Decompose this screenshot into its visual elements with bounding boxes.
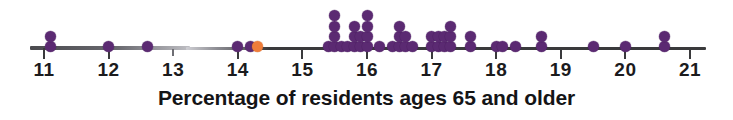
x-tick-label-15: 15 bbox=[291, 60, 313, 79]
x-tick-label-21: 21 bbox=[679, 60, 701, 79]
data-dot bbox=[329, 10, 340, 21]
data-dot bbox=[232, 41, 243, 52]
dotplot-chart: 1112131415161718192021 Percentage of res… bbox=[0, 0, 733, 120]
data-dot bbox=[445, 21, 456, 32]
data-dot bbox=[536, 31, 547, 42]
x-tick-15 bbox=[301, 48, 303, 59]
plot-area: 1112131415161718192021 bbox=[0, 0, 733, 84]
data-dot bbox=[497, 41, 508, 52]
data-dot bbox=[362, 41, 373, 52]
data-dot bbox=[407, 41, 418, 52]
data-dot bbox=[374, 41, 385, 52]
data-dot bbox=[659, 31, 670, 42]
x-tick-19 bbox=[560, 48, 562, 59]
data-dot bbox=[103, 41, 114, 52]
data-dot bbox=[394, 21, 405, 32]
data-dot bbox=[465, 41, 476, 52]
x-tick-label-11: 11 bbox=[33, 60, 54, 79]
x-tick-label-12: 12 bbox=[98, 60, 120, 79]
x-tick-label-14: 14 bbox=[227, 60, 249, 79]
data-dot bbox=[400, 31, 411, 42]
x-tick-label-16: 16 bbox=[356, 60, 378, 79]
data-dot bbox=[465, 31, 476, 42]
x-tick-label-18: 18 bbox=[485, 60, 507, 79]
x-axis-label: Percentage of residents ages 65 and olde… bbox=[0, 86, 733, 110]
data-dot bbox=[510, 41, 521, 52]
data-dot bbox=[252, 41, 263, 52]
data-dot bbox=[45, 31, 56, 42]
x-tick-label-19: 19 bbox=[550, 60, 572, 79]
data-dot bbox=[362, 10, 373, 21]
data-dot bbox=[329, 21, 340, 32]
data-dot bbox=[659, 41, 670, 52]
data-dot bbox=[349, 21, 360, 32]
data-dot bbox=[445, 41, 456, 52]
x-tick-11 bbox=[43, 48, 45, 59]
data-dot bbox=[329, 31, 340, 42]
data-dot bbox=[536, 41, 547, 52]
x-tick-13 bbox=[172, 49, 174, 56]
data-dot bbox=[620, 41, 631, 52]
x-tick-label-20: 20 bbox=[614, 60, 636, 79]
x-tick-21 bbox=[689, 48, 691, 59]
x-tick-label-17: 17 bbox=[421, 60, 443, 79]
data-dot bbox=[588, 41, 599, 52]
data-dot bbox=[362, 21, 373, 32]
data-dot bbox=[362, 31, 373, 42]
data-dot bbox=[142, 41, 153, 52]
data-dot bbox=[445, 31, 456, 42]
x-tick-label-13: 13 bbox=[162, 60, 184, 79]
data-dot bbox=[45, 41, 56, 52]
